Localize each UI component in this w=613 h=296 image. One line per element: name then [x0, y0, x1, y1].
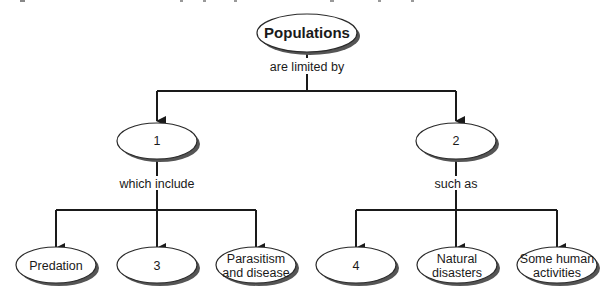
node-1: 1	[117, 123, 200, 162]
concept-map: Populations are limited by 1 which inclu…	[0, 0, 613, 296]
node-label: 2	[453, 134, 460, 148]
node-parasitism-and-disease: Parasitism and disease	[216, 247, 299, 286]
node-2: 2	[416, 123, 499, 162]
node-label-line-1: Some human	[520, 252, 594, 266]
node-label-line-2: activities	[533, 266, 581, 280]
node-label: Predation	[29, 259, 83, 273]
node-label: Populations	[264, 24, 350, 41]
node-some-human-activities: Some human activities	[517, 247, 600, 286]
node-label: 3	[154, 259, 161, 273]
cropped-top-text	[20, 0, 414, 2]
node-4: 4	[316, 247, 399, 286]
node-predation: Predation	[16, 247, 99, 286]
node-label: 4	[353, 259, 360, 273]
node-label-line-1: Natural	[437, 252, 477, 266]
node-3: 3	[117, 247, 200, 286]
node-label-line-2: and disease	[222, 266, 289, 280]
node-label-line-1: Parasitism	[227, 252, 285, 266]
node-label: 1	[154, 134, 161, 148]
link-label-which-include: which include	[118, 177, 194, 191]
node-natural-disasters: Natural disasters	[417, 247, 500, 286]
link-label-such-as: such as	[434, 177, 477, 191]
node-label-line-2: disasters	[432, 266, 482, 280]
node-populations: Populations	[257, 14, 360, 55]
link-label-are-limited-by: are limited by	[270, 60, 345, 74]
